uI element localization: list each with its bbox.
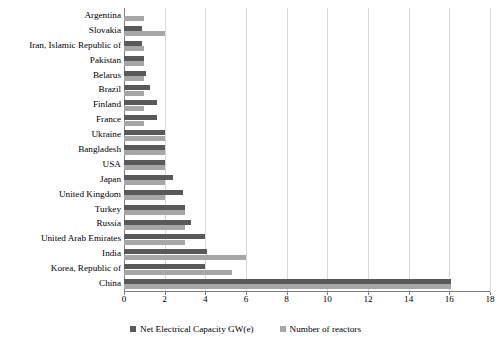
gridline-18 — [490, 8, 491, 291]
bar-group — [124, 261, 490, 276]
bar-reactors — [124, 225, 185, 230]
bar-group — [124, 112, 490, 127]
bar-group — [124, 82, 490, 97]
bar-group — [124, 68, 490, 83]
category-label: France — [1, 114, 121, 124]
bar-reactors — [124, 180, 165, 185]
legend-item[interactable]: Number of reactors — [280, 323, 361, 335]
x-tick-label: 8 — [272, 292, 302, 306]
bar-capacity — [124, 220, 191, 225]
bar-reactors — [124, 284, 451, 289]
bar-capacity — [124, 41, 142, 46]
category-label: Argentina — [1, 10, 121, 20]
category-label: Japan — [1, 174, 121, 184]
bar-capacity — [124, 279, 451, 284]
bar-reactors — [124, 16, 144, 21]
plot-area — [124, 8, 490, 291]
x-tick-label: 10 — [312, 292, 342, 306]
category-label: Bangladesh — [1, 144, 121, 154]
chart-legend: Net Electrical Capacity GW(e)Number of r… — [0, 320, 491, 338]
bar-capacity — [124, 145, 165, 150]
x-tick-label: 12 — [353, 292, 383, 306]
category-label: USA — [1, 159, 121, 169]
bar-reactors — [124, 61, 144, 66]
category-label: Slovakia — [1, 25, 121, 35]
bar-group — [124, 187, 490, 202]
bar-group — [124, 202, 490, 217]
bar-reactors — [124, 210, 185, 215]
bar-capacity — [124, 264, 205, 269]
legend-label: Number of reactors — [290, 323, 361, 335]
x-tick-label: 16 — [434, 292, 464, 306]
x-tick-label: 0 — [109, 292, 139, 306]
category-axis-labels: ArgentinaSlovakiaIran, Islamic Republic … — [0, 8, 121, 291]
bar-capacity — [124, 234, 205, 239]
bar-reactors — [124, 121, 144, 126]
bar-group — [124, 172, 490, 187]
bar-reactors — [124, 270, 232, 275]
category-label: Korea, Republic of — [1, 263, 121, 273]
bar-group — [124, 142, 490, 157]
bar-group — [124, 38, 490, 53]
bar-reactors — [124, 91, 144, 96]
bar-reactors — [124, 165, 165, 170]
bar-group — [124, 23, 490, 38]
bar-group — [124, 127, 490, 142]
bar-reactors — [124, 195, 165, 200]
legend-swatch-icon — [280, 326, 286, 332]
category-label: Ukraine — [1, 129, 121, 139]
category-label: India — [1, 248, 121, 258]
bar-capacity — [124, 190, 183, 195]
x-tick-label: 18 — [475, 292, 499, 306]
x-tick-label: 4 — [190, 292, 220, 306]
category-label: United Kingdom — [1, 189, 121, 199]
category-label: China — [1, 278, 121, 288]
bar-capacity — [124, 71, 146, 76]
bar-capacity — [124, 85, 150, 90]
bar-capacity — [124, 130, 165, 135]
bar-reactors — [124, 150, 165, 155]
category-label: Pakistan — [1, 55, 121, 65]
bar-group — [124, 217, 490, 232]
x-axis-tick-labels: 024681012141618 — [124, 292, 490, 308]
bar-group — [124, 246, 490, 261]
bar-reactors — [124, 255, 246, 260]
bar-reactors — [124, 106, 144, 111]
bar-capacity — [124, 160, 165, 165]
category-label: Finland — [1, 99, 121, 109]
legend-swatch-icon — [130, 326, 136, 332]
category-label: Belarus — [1, 70, 121, 80]
category-label: Iran, Islamic Republic of — [1, 40, 121, 50]
bar-group — [124, 8, 490, 23]
bar-reactors — [124, 76, 144, 81]
bar-capacity — [124, 205, 185, 210]
category-label: United Arab Emirates — [1, 233, 121, 243]
legend-label: Net Electrical Capacity GW(e) — [140, 323, 254, 335]
bar-capacity — [124, 56, 144, 61]
legend-item[interactable]: Net Electrical Capacity GW(e) — [130, 323, 254, 335]
bar-reactors — [124, 240, 185, 245]
bar-group — [124, 97, 490, 112]
category-label: Russia — [1, 218, 121, 228]
bar-capacity — [124, 249, 207, 254]
bar-capacity — [124, 175, 173, 180]
bar-capacity — [124, 26, 142, 31]
bar-capacity — [124, 100, 157, 105]
category-label: Brazil — [1, 84, 121, 94]
bar-capacity — [124, 115, 157, 120]
bar-group — [124, 276, 490, 291]
bar-group — [124, 157, 490, 172]
bar-reactors — [124, 31, 165, 36]
bar-reactors — [124, 46, 144, 51]
x-tick-label: 2 — [150, 292, 180, 306]
x-tick-label: 6 — [231, 292, 261, 306]
category-label: Turkey — [1, 204, 121, 214]
x-tick-label: 14 — [394, 292, 424, 306]
bar-group — [124, 231, 490, 246]
bar-reactors — [124, 136, 165, 141]
bar-group — [124, 53, 490, 68]
